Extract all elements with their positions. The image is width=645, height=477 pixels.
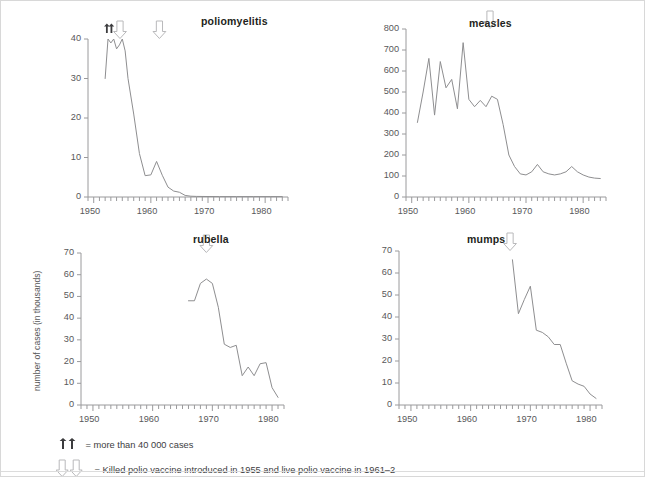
chart-title-poliomyelitis: poliomyelitis xyxy=(201,15,268,27)
chart-svg-rubella xyxy=(41,233,321,433)
y-tick-label-poliomyelitis-0: 0 xyxy=(41,191,81,201)
killed-vaccine-1955-arrow xyxy=(114,21,127,39)
y-tick-label-measles-8: 800 xyxy=(359,23,399,33)
x-tick-label-mumps-1: 1960 xyxy=(457,414,477,424)
data-series-measles xyxy=(417,43,600,179)
data-series-mumps xyxy=(512,260,596,399)
x-tick-label-poliomyelitis-2: 1970 xyxy=(194,206,214,216)
y-tick-label-mumps-2: 20 xyxy=(359,355,392,365)
footnote-polio-vaccine-text: = Killed polio vaccine introduced in 195… xyxy=(95,465,396,475)
chart-title-rubella: rubella xyxy=(193,233,229,245)
live-vaccine-1961-arrow xyxy=(153,21,166,39)
chart-panel-rubella: 0102030405060701950196019701980rubella xyxy=(41,233,321,433)
y-tick-label-rubella-0: 0 xyxy=(41,399,74,409)
x-tick-label-mumps-0: 1950 xyxy=(397,414,417,424)
chart-title-measles: measles xyxy=(469,17,512,29)
footnote-more-than-40000: = more than 40 000 cases xyxy=(58,438,193,450)
x-tick-label-measles-0: 1950 xyxy=(398,206,418,216)
x-tick-label-rubella-2: 1970 xyxy=(198,414,218,424)
y-tick-label-rubella-5: 50 xyxy=(41,290,74,300)
y-tick-label-poliomyelitis-1: 10 xyxy=(41,152,81,162)
y-tick-label-poliomyelitis-2: 20 xyxy=(41,112,81,122)
up-arrows-icon xyxy=(58,438,80,450)
chart-svg-measles xyxy=(359,15,639,220)
chart-panel-measles: 0100200300400500600700800195019601970198… xyxy=(359,15,639,220)
down-arrows-icon xyxy=(56,459,90,477)
x-tick-label-mumps-3: 1980 xyxy=(576,414,596,424)
y-tick-label-poliomyelitis-3: 30 xyxy=(41,73,81,83)
y-tick-label-rubella-6: 60 xyxy=(41,269,74,279)
y-tick-label-measles-0: 0 xyxy=(359,191,399,201)
y-tick-label-mumps-7: 70 xyxy=(359,245,392,255)
chart-panel-mumps: 0102030405060701950196019701980mumps xyxy=(359,233,639,433)
y-tick-label-measles-1: 100 xyxy=(359,170,399,180)
bottom-divider xyxy=(1,471,644,472)
x-tick-label-rubella-3: 1980 xyxy=(258,414,278,424)
y-tick-label-mumps-5: 50 xyxy=(359,289,392,299)
x-tick-label-poliomyelitis-3: 1980 xyxy=(251,206,271,216)
y-tick-label-measles-6: 600 xyxy=(359,65,399,75)
x-tick-label-poliomyelitis-1: 1960 xyxy=(137,206,157,216)
y-tick-label-rubella-1: 10 xyxy=(41,377,74,387)
data-series-poliomyelitis xyxy=(105,39,282,197)
data-series-rubella xyxy=(188,279,278,397)
y-tick-label-mumps-3: 30 xyxy=(359,333,392,343)
y-tick-label-rubella-3: 30 xyxy=(41,334,74,344)
chart-svg-poliomyelitis xyxy=(41,15,321,220)
x-tick-label-measles-3: 1980 xyxy=(569,206,589,216)
y-tick-label-rubella-4: 40 xyxy=(41,312,74,322)
y-tick-label-rubella-2: 20 xyxy=(41,356,74,366)
y-tick-label-mumps-6: 60 xyxy=(359,267,392,277)
x-tick-label-rubella-1: 1960 xyxy=(139,414,159,424)
y-tick-label-measles-3: 300 xyxy=(359,128,399,138)
y-tick-label-mumps-1: 10 xyxy=(359,377,392,387)
x-tick-label-measles-1: 1960 xyxy=(455,206,475,216)
y-tick-label-rubella-7: 70 xyxy=(41,247,74,257)
figure-root: number of cases (in thousands) 010203040… xyxy=(0,0,645,477)
more-than-40000-marker-a xyxy=(104,23,110,33)
y-tick-label-mumps-0: 0 xyxy=(359,399,392,409)
y-tick-label-measles-5: 500 xyxy=(359,86,399,96)
chart-panel-poliomyelitis: 0102030401950196019701980poliomyelitis xyxy=(41,15,321,220)
chart-title-mumps: mumps xyxy=(467,233,505,245)
x-tick-label-rubella-0: 1950 xyxy=(79,414,99,424)
x-tick-label-measles-2: 1970 xyxy=(512,206,532,216)
y-tick-label-measles-7: 700 xyxy=(359,44,399,54)
chart-svg-mumps xyxy=(359,233,639,433)
footnote-more-than-40000-text: = more than 40 000 cases xyxy=(86,440,194,450)
y-tick-label-measles-4: 400 xyxy=(359,107,399,117)
mumps-vaccine-arrow xyxy=(504,233,517,251)
footnote-polio-vaccine: = Killed polio vaccine introduced in 195… xyxy=(56,459,395,477)
x-tick-label-mumps-2: 1970 xyxy=(516,414,536,424)
y-tick-label-poliomyelitis-4: 40 xyxy=(41,33,81,43)
y-tick-label-measles-2: 200 xyxy=(359,149,399,159)
y-tick-label-mumps-4: 40 xyxy=(359,311,392,321)
x-tick-label-poliomyelitis-0: 1950 xyxy=(80,206,100,216)
